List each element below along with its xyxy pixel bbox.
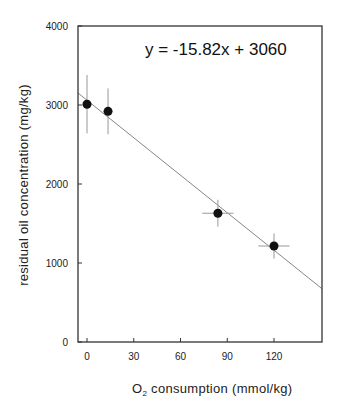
data-point bbox=[213, 209, 222, 218]
x-axis-label-rest: consumption (mmol/kg) bbox=[147, 381, 292, 396]
chart: 010002000300040000306090120 y = -15.82x … bbox=[0, 0, 338, 418]
x-tick-label: 90 bbox=[222, 351, 234, 362]
y-tick-label: 4000 bbox=[46, 21, 69, 32]
plot-frame bbox=[78, 26, 322, 342]
x-axis-label: O2 consumption (mmol/kg) bbox=[132, 381, 292, 398]
y-tick-label: 3000 bbox=[46, 100, 69, 111]
y-axis-label: residual oil concentration (mg/kg) bbox=[16, 84, 31, 286]
x-tick-label: 60 bbox=[175, 351, 187, 362]
regression-equation: y = -15.82x + 3060 bbox=[145, 40, 287, 59]
y-tick-label: 1000 bbox=[46, 258, 69, 269]
data-point bbox=[83, 100, 92, 109]
data-point bbox=[270, 242, 279, 251]
y-tick-label: 0 bbox=[62, 337, 68, 348]
x-tick-label: 120 bbox=[266, 351, 283, 362]
plot-area: 010002000300040000306090120 bbox=[46, 21, 322, 362]
x-tick-label: 0 bbox=[84, 351, 90, 362]
x-axis-label-o: O bbox=[132, 381, 142, 396]
data-point bbox=[104, 107, 113, 116]
y-tick-label: 2000 bbox=[46, 179, 69, 190]
fit-line bbox=[78, 93, 322, 289]
x-tick-label: 30 bbox=[128, 351, 140, 362]
